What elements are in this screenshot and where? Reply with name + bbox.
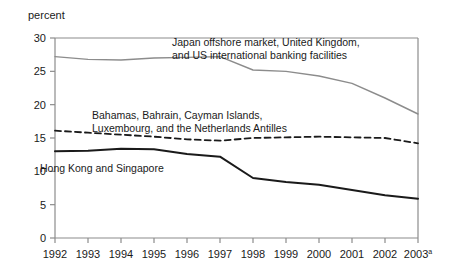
x-tick-label: 2003a [404, 248, 432, 260]
annotation-line-1: Japan offshore market, United Kingdom, [172, 36, 360, 48]
x-tick-label: 1993 [76, 248, 100, 260]
annotation-hongkong: Hong Kong and Singapore [40, 162, 164, 174]
annotation-line-1: Bahamas, Bahrain, Cayman Islands, [92, 109, 262, 121]
y-tick-label: 5 [40, 199, 46, 211]
line-chart: percent 051015202530 1992199319941995199… [0, 0, 450, 276]
y-tick-label: 0 [40, 232, 46, 244]
x-axis-ticks: 1992199319941995199619971998199920002001… [43, 238, 433, 260]
x-tick-label-superscript: a [428, 248, 432, 255]
axis-group [55, 38, 418, 238]
annotation-bahamas: Bahamas, Bahrain, Cayman Islands,Luxembo… [92, 109, 287, 134]
y-axis-ticks: 051015202530 [34, 32, 55, 244]
series-line-0 [55, 57, 418, 114]
x-tick-label: 1996 [175, 248, 199, 260]
x-tick-label: 1995 [142, 248, 166, 260]
x-tick-label: 2001 [340, 248, 364, 260]
x-tick-label: 2002 [373, 248, 397, 260]
y-tick-label: 30 [34, 32, 46, 44]
annotation-line-2: and US international banking facilities [172, 49, 347, 61]
x-tick-label: 1994 [109, 248, 133, 260]
annotation-line-1: Hong Kong and Singapore [40, 162, 164, 174]
y-tick-label: 25 [34, 65, 46, 77]
x-tick-label: 1997 [208, 248, 232, 260]
series-annotations: Japan offshore market, United Kingdom,an… [40, 36, 360, 174]
x-tick-label: 2000 [307, 248, 331, 260]
x-tick-label: 1992 [43, 248, 67, 260]
x-tick-label: 1998 [241, 248, 265, 260]
y-tick-label: 15 [34, 132, 46, 144]
annotation-line-2: Luxembourg, and the Netherlands Antilles [92, 122, 287, 134]
annotation-japan: Japan offshore market, United Kingdom,an… [172, 36, 360, 61]
y-tick-label: 20 [34, 99, 46, 111]
x-tick-label: 1999 [274, 248, 298, 260]
y-axis-unit-label: percent [28, 9, 65, 21]
chart-container: percent 051015202530 1992199319941995199… [0, 0, 450, 276]
